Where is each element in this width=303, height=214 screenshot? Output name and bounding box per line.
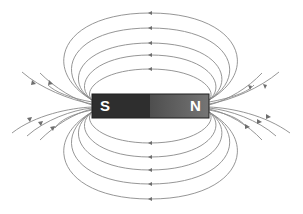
bar-magnet: S N: [92, 94, 209, 118]
bottom-arrows: [148, 141, 152, 201]
south-pole-label: S: [100, 97, 110, 114]
top-arrows: [148, 11, 152, 71]
magnetic-field-diagram: S N: [0, 0, 303, 214]
top-field-loops: [64, 13, 238, 100]
left-field-rays: [12, 72, 92, 140]
bottom-field-loops: [64, 112, 238, 199]
north-pole-label: N: [190, 97, 201, 114]
right-field-rays: [209, 72, 290, 140]
